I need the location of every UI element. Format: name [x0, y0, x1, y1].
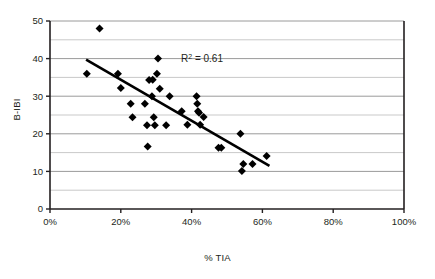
x-tick-label: 0% [43, 216, 57, 227]
x-axis-tick-labels: 0%20%40%60%80%100% [43, 216, 417, 227]
r-squared-value: = 0.61 [192, 53, 223, 64]
x-tick-label: 40% [182, 216, 202, 227]
chart-canvas: 01020304050 0%20%40%60%80%100% R2 = 0.61 [0, 0, 435, 279]
y-tick-label: 10 [32, 166, 43, 177]
x-tick-label: 60% [253, 216, 273, 227]
y-tick-label: 20 [32, 128, 43, 139]
r-squared-base: R [181, 53, 188, 64]
y-tick-label: 40 [32, 53, 43, 64]
y-axis-title: B-IBI [11, 80, 22, 140]
y-tick-label: 0 [38, 203, 43, 214]
x-axis-title: % TIA [0, 252, 435, 263]
scatter-chart: 01020304050 0%20%40%60%80%100% R2 = 0.61… [0, 0, 435, 279]
x-tick-label: 80% [324, 216, 344, 227]
x-tick-label: 20% [111, 216, 131, 227]
y-tick-label: 30 [32, 91, 43, 102]
y-tick-label: 50 [32, 15, 43, 26]
x-tick-label: 100% [392, 216, 417, 227]
y-axis-tick-labels: 01020304050 [32, 15, 43, 214]
r-squared-label: R2 = 0.61 [181, 53, 223, 65]
